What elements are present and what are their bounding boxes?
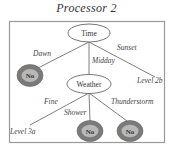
edge-label-thunderstorm: Thunderstorm xyxy=(111,97,154,106)
leaf-no-thunderstorm-label: No xyxy=(126,128,135,136)
node-weather: Weather xyxy=(67,75,111,94)
node-weather-label: Weather xyxy=(77,80,102,89)
edge-shower xyxy=(89,93,90,121)
edge-label-sunset: Sunset xyxy=(117,43,137,52)
leaf-no-dawn: No xyxy=(17,65,43,87)
leaf-no-dawn-label: No xyxy=(26,72,35,80)
edge-label-midday: Midday xyxy=(91,56,116,65)
edge-label-shower: Shower xyxy=(64,108,87,117)
leaf-level-3a: Level 3a xyxy=(9,127,36,136)
node-time-label: Time xyxy=(81,29,97,38)
leaf-no-shower: No xyxy=(77,121,103,142)
edge-label-fine: Fine xyxy=(43,97,58,106)
node-time: Time xyxy=(68,24,110,42)
leaf-no-shower-label: No xyxy=(86,128,95,136)
leaf-no-thunderstorm: No xyxy=(117,121,143,142)
edge-label-dawn: Dawn xyxy=(32,49,51,58)
leaf-level-2b: Level 2b xyxy=(136,76,163,85)
decision-tree: Dawn Midday Sunset Fine Shower Thunderst… xyxy=(0,0,173,148)
